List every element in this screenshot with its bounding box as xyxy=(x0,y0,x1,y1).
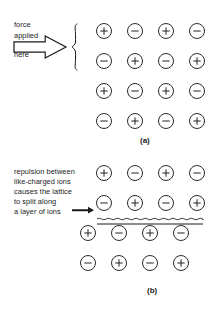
ionic-lattice-figure: force applied here (a) repulsion between… xyxy=(0,0,223,309)
ion-negative xyxy=(189,23,205,39)
wavy-cleavage-line xyxy=(97,218,203,220)
ion-positive xyxy=(158,83,174,99)
ion-negative xyxy=(127,83,143,99)
plus-icon xyxy=(97,166,111,180)
curly-brace-left-icon xyxy=(72,24,77,70)
plus-icon xyxy=(159,166,173,180)
minus-icon xyxy=(128,166,142,180)
ion-positive xyxy=(80,225,96,241)
ion-positive xyxy=(96,23,112,39)
ion-positive xyxy=(127,113,143,129)
ion-positive xyxy=(96,83,112,99)
plus-icon xyxy=(174,256,188,270)
ion-negative xyxy=(173,225,189,241)
plus-icon xyxy=(81,226,95,240)
plus-icon xyxy=(190,196,204,210)
panel-a: force applied here (a) xyxy=(0,0,223,155)
ion-positive xyxy=(189,195,205,211)
minus-icon xyxy=(190,24,204,38)
plus-icon xyxy=(128,114,142,128)
ion-negative xyxy=(127,165,143,181)
ion-negative xyxy=(158,195,174,211)
minus-icon xyxy=(159,54,173,68)
minus-icon xyxy=(97,114,111,128)
ion-negative xyxy=(96,195,112,211)
plus-icon xyxy=(112,256,126,270)
ion-negative xyxy=(142,255,158,271)
ion-negative xyxy=(96,113,112,129)
minus-icon xyxy=(97,54,111,68)
ion-negative xyxy=(158,113,174,129)
pointer-arrow-right-icon xyxy=(72,207,94,214)
minus-icon xyxy=(128,84,142,98)
panel-b: repulsion between like-charged ions caus… xyxy=(0,155,223,309)
panel-label-a: (a) xyxy=(140,136,150,145)
ion-positive xyxy=(158,23,174,39)
block-arrow-right-icon xyxy=(14,36,66,58)
ion-positive xyxy=(189,53,205,69)
minus-icon xyxy=(128,24,142,38)
ion-positive xyxy=(96,165,112,181)
ion-positive xyxy=(127,195,143,211)
minus-icon xyxy=(174,226,188,240)
ion-negative xyxy=(80,255,96,271)
ion-negative xyxy=(96,53,112,69)
minus-icon xyxy=(159,114,173,128)
ion-negative xyxy=(111,225,127,241)
plus-icon xyxy=(97,84,111,98)
ion-positive xyxy=(173,255,189,271)
plus-icon xyxy=(159,24,173,38)
minus-icon xyxy=(143,256,157,270)
minus-icon xyxy=(190,166,204,180)
plus-icon xyxy=(190,114,204,128)
ion-negative xyxy=(158,53,174,69)
minus-icon xyxy=(97,196,111,210)
plus-icon xyxy=(128,196,142,210)
ion-positive xyxy=(127,53,143,69)
ion-positive xyxy=(158,165,174,181)
ion-positive xyxy=(111,255,127,271)
plus-icon xyxy=(97,24,111,38)
minus-icon xyxy=(159,196,173,210)
minus-icon xyxy=(112,226,126,240)
plus-icon xyxy=(190,54,204,68)
minus-icon xyxy=(81,256,95,270)
ion-positive xyxy=(142,225,158,241)
plus-icon xyxy=(143,226,157,240)
ion-positive xyxy=(189,113,205,129)
ion-negative xyxy=(189,165,205,181)
ion-negative xyxy=(189,83,205,99)
plus-icon xyxy=(159,84,173,98)
minus-icon xyxy=(190,84,204,98)
plus-icon xyxy=(128,54,142,68)
ion-negative xyxy=(127,23,143,39)
panel-label-b: (b) xyxy=(147,286,157,295)
